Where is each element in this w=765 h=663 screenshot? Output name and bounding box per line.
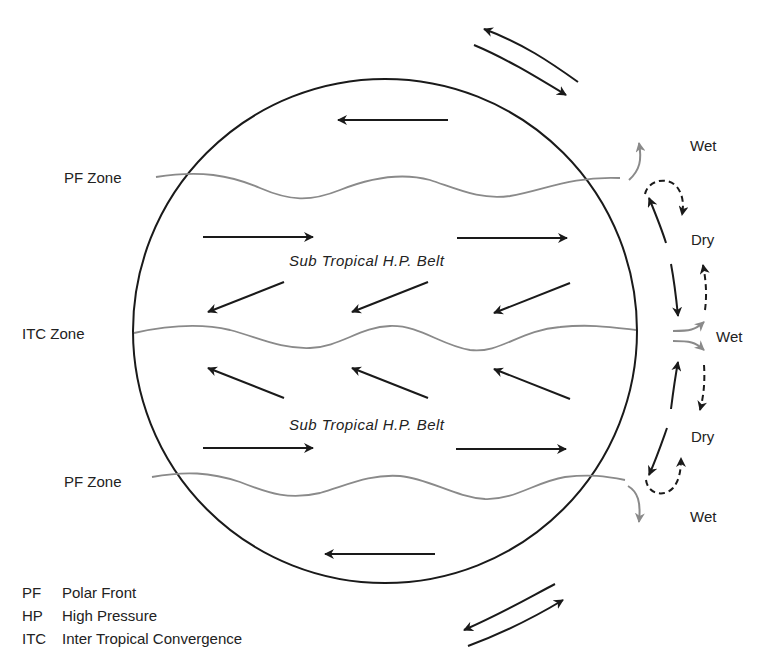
se-trade-arrow-2 xyxy=(352,368,428,398)
upper-flow-arrow-south xyxy=(464,584,555,630)
circulation-diagram: PF Zone ITC Zone PF Zone Sub Tropical H.… xyxy=(0,0,765,663)
descending-dashed-arrow-north xyxy=(645,181,683,215)
pf-zone-label-north: PF Zone xyxy=(64,169,122,186)
legend-row-hp: HP High Pressure xyxy=(22,604,242,627)
legend-row-itc: ITC Inter Tropical Convergence xyxy=(22,627,242,650)
rising-air-arrow-pf-north xyxy=(629,143,640,180)
pf-zone-line-north xyxy=(156,174,620,199)
climate-label-dry-1: Dry xyxy=(691,231,715,248)
legend-abbr: HP xyxy=(22,604,62,627)
ne-trade-arrow-2 xyxy=(352,282,428,312)
surface-arrow-down-south xyxy=(649,428,667,475)
climate-label-dry-2: Dry xyxy=(691,428,715,445)
surface-arrow-up-north xyxy=(649,198,666,243)
legend-meaning: High Pressure xyxy=(62,604,157,627)
upper-flow-arrow-north xyxy=(474,45,566,95)
rising-air-arrow-itc-1 xyxy=(673,322,704,331)
descending-dashed-arrow-south-2 xyxy=(700,365,704,410)
ne-trade-arrow-3 xyxy=(494,283,570,313)
rising-air-arrow-itc-2 xyxy=(673,341,704,350)
surface-arrow-up-south xyxy=(671,362,678,409)
legend: PF Polar Front HP High Pressure ITC Inte… xyxy=(22,581,242,650)
se-trade-arrow-3 xyxy=(494,369,570,399)
subtropical-belt-label-south: Sub Tropical H.P. Belt xyxy=(289,416,445,433)
legend-meaning: Polar Front xyxy=(62,581,136,604)
se-trade-arrow-1 xyxy=(208,368,284,398)
surface-arrow-down-north xyxy=(671,264,678,316)
upper-return-arrow-south xyxy=(468,600,563,646)
ne-trade-arrow-1 xyxy=(208,282,284,312)
subtropical-belt-label-north: Sub Tropical H.P. Belt xyxy=(289,252,445,269)
legend-row-pf: PF Polar Front xyxy=(22,581,242,604)
itc-zone-line xyxy=(134,326,636,351)
climate-label-wet-2: Wet xyxy=(716,328,743,345)
climate-label-wet-3: Wet xyxy=(690,508,717,525)
climate-label-wet-1: Wet xyxy=(690,137,717,154)
pf-zone-label-south: PF Zone xyxy=(64,473,122,490)
earth-outline xyxy=(133,79,637,583)
rising-air-arrow-pf-south xyxy=(628,486,640,522)
itc-zone-label: ITC Zone xyxy=(22,325,85,342)
legend-meaning: Inter Tropical Convergence xyxy=(62,627,242,650)
legend-abbr: PF xyxy=(22,581,62,604)
descending-dashed-arrow-south xyxy=(646,458,681,493)
descending-dashed-arrow-north-2 xyxy=(703,265,706,310)
legend-abbr: ITC xyxy=(22,627,62,650)
pf-zone-line-south xyxy=(152,473,625,499)
